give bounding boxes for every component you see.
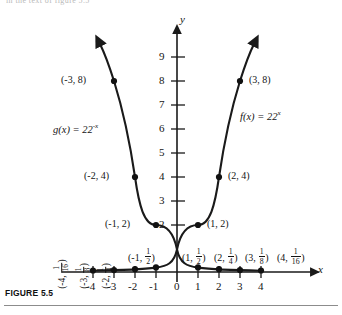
figure-caption: FIGURE 5.5 [5,288,53,298]
frac-tail: ) [101,263,111,266]
point-label-f-minus4-frac: (-4, 116) [53,259,70,288]
frac-lead: (-1, [128,252,145,263]
frac-tail: ) [234,252,237,263]
point-label-f-2-4: (2, 4) [228,171,250,181]
function-label-g: g(x) = 22-x [53,123,98,135]
y-axis-label: y [180,14,185,25]
point-label-g-minus2-4: (-2, 4) [84,171,109,181]
y-tick-label-8: 8 [159,75,165,86]
y-tick-label-2: 2 [159,219,165,230]
fraction-1-4: 14 [228,248,234,266]
fraction-1-2: 12 [145,248,151,266]
x-tick-label-2: 2 [216,281,222,292]
x-tick-label-0: 0 [174,281,180,292]
fraction-1-8: 18 [259,248,265,266]
point-label-g-minus3-8: (-3, 8) [61,75,86,85]
frac-lead: (-4, [57,273,67,289]
figure-caption-number: 5.5 [41,288,53,298]
frac-tail: ) [265,252,268,263]
frac-tail: ) [301,252,304,263]
point-label-g-4-frac: (4, 116) [277,248,304,266]
point-label-f-1-2: (1, 2) [207,219,229,229]
frac-lead: (3, [245,252,258,263]
function-label-f-eq: = 2 [255,111,273,122]
point-label-g-minus1-2: (-1, 2) [105,219,130,229]
fraction-1-16: 116 [53,263,70,272]
point-label-g-3-frac: (3, 18) [245,248,269,266]
x-axis-label: x [318,264,323,275]
frac-tail: ) [57,259,67,262]
figure-container: in the text of figure 5.5 [0,0,342,315]
y-tick-label-9: 9 [159,51,165,62]
y-tick-label-4: 4 [159,171,165,182]
x-tick-label-3: 3 [237,281,243,292]
bottom-divider [4,305,338,306]
function-label-f-name: f(x) [240,111,255,122]
fraction-1-8: 18 [75,267,92,273]
frac-tail: ) [202,252,205,263]
function-label-g-exponent: -x [93,122,99,130]
plot-points-f [90,78,243,274]
y-tick-label-3: 3 [159,195,165,206]
fraction-1-4: 14 [97,267,114,273]
x-tick-label--2: -2 [128,281,137,292]
fraction-1-16: 116 [291,248,301,266]
frac-lead: (-2, [101,273,111,289]
fraction-1-2: 12 [196,248,202,266]
frac-lead: (-3, [79,273,89,289]
y-tick-label-7: 7 [159,99,165,110]
function-label-f: f(x) = 22x [240,110,281,122]
point-label-f-3-8: (3, 8) [249,75,271,85]
point-label-f-minus1-frac: (-1, 12) [128,248,155,266]
point-label-g-2-frac: (2, 14) [214,248,238,266]
frac-tail: ) [79,263,89,266]
y-tick-label-6: 6 [159,123,165,134]
frac-tail: ) [152,252,155,263]
y-tick-label-5: 5 [159,147,165,158]
function-label-g-eq: = 2 [70,124,88,135]
x-tick-label-1: 1 [195,281,201,292]
x-tick-label-4: 4 [258,281,264,292]
function-label-f-exponent: x [277,109,280,117]
point-label-f-minus3-frac: (-3, 18) [75,263,92,289]
y-axis-ticks [171,57,185,225]
frac-lead: (1, [182,252,195,263]
frac-lead: (4, [277,252,290,263]
point-label-f-minus2-frac: (-2, 14) [97,263,114,289]
frac-lead: (2, [214,252,227,263]
point-label-g-1-frac: (1, 12) [182,248,206,266]
figure-caption-word: FIGURE [5,288,38,298]
function-label-g-name: g(x) [53,124,70,135]
x-tick-label--1: -1 [149,281,158,292]
